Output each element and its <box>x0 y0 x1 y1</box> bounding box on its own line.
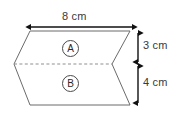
figure-line-art <box>0 0 186 119</box>
lower-height-dimension-label: 4 cm <box>143 77 168 88</box>
region-label-b: B <box>62 75 79 92</box>
upper-height-dimension-label: 3 cm <box>143 40 168 51</box>
width-dimension-label: 8 cm <box>62 11 87 22</box>
region-label-a: A <box>62 40 79 57</box>
geometry-figure: 8 cm 3 cm 4 cm A B <box>0 0 186 119</box>
